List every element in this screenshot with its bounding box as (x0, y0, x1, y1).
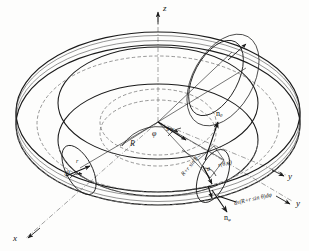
axis-label-x: x (13, 234, 17, 243)
normal-vectors (66, 122, 236, 212)
tube-cross-section-left (55, 140, 103, 200)
vector-label-n-phi: nφ (224, 214, 231, 223)
label-major-radius-R: R (130, 140, 135, 148)
label-minor-radius-r: r (76, 158, 78, 164)
vector-label-n-theta: nθ (216, 110, 222, 119)
axis-label-y: y (296, 199, 300, 208)
axis-label-z: z (163, 4, 167, 13)
x-axis-line (26, 122, 158, 238)
angle-arcs (70, 127, 216, 178)
inner-ridge-top (58, 47, 258, 159)
axis-label-y-hat: y (288, 172, 309, 181)
label-angle-phi: φ (152, 130, 156, 138)
centerline-circle (37, 56, 279, 192)
n-phi-sub: φ (228, 217, 231, 222)
tube-cross-section-upper-right-outer (172, 22, 274, 139)
line-center-to-upper-patch2 (158, 68, 246, 122)
n-theta-sub: θ (220, 113, 222, 118)
label-s-hat: s (166, 125, 309, 133)
torus-hole-circles (37, 56, 279, 192)
label-angle-phi-inner: φ (170, 126, 173, 132)
torus-diagram: z y x y R φ s φ r dθ θ nθ nφ ds(R+r sin … (0, 0, 309, 251)
label-angle-theta: θ (207, 166, 210, 172)
